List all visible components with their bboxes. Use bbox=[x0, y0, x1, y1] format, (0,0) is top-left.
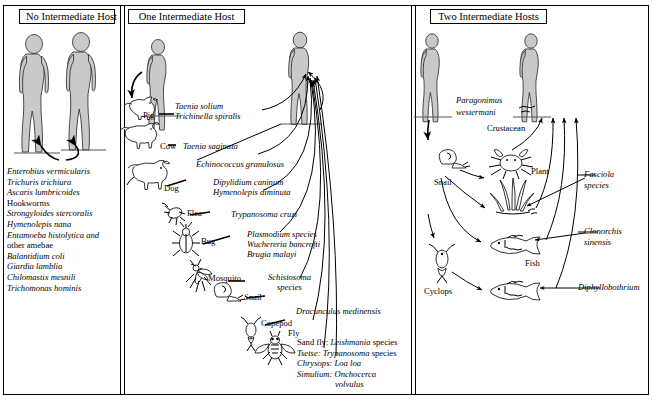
fly-vector-simulium: Simulium: Onchocerca bbox=[297, 369, 398, 380]
parasite-brugia-malayi: Brugia malayi bbox=[247, 249, 296, 260]
parasite-dracunculus-medinensis: Dracunculus medinensis bbox=[296, 306, 381, 317]
panel-title-one-intermediate-host: One Intermediate Host bbox=[128, 9, 245, 24]
host-label-crustacean: Crustacean bbox=[487, 123, 525, 133]
host-label-plant: Plant bbox=[531, 166, 549, 176]
panel-title-two-intermediate-hosts: Two Intermediate Hosts bbox=[430, 9, 547, 24]
species-enterobius: Enterobius vermicularis bbox=[7, 166, 117, 177]
host-label-cow: Cow bbox=[160, 141, 176, 151]
fly-vector-volvulus: volvulus bbox=[297, 379, 398, 390]
host-label-snail: Snail bbox=[244, 292, 262, 302]
panel-divider-left-outer bbox=[120, 5, 121, 395]
parasite-dipylidium-caninum: Dipylidium caninum bbox=[213, 177, 283, 188]
parasite-taenia-saginata: Taenia saginata bbox=[183, 141, 238, 152]
species-strongyloides: Strongyloides stercoralis bbox=[7, 208, 117, 219]
host-label-cyclops: Cyclops bbox=[424, 286, 452, 296]
parasite-plasmodium-species: Plasmodium species bbox=[247, 229, 317, 240]
parasite-trichinella-spiralis: Trichinella spiralis bbox=[175, 111, 241, 122]
panel-divider-left-inner bbox=[124, 5, 125, 395]
parasite-paragonimus-2: westermani bbox=[456, 107, 496, 118]
parasite-schistosoma-species: species bbox=[277, 282, 302, 293]
fly-vector-list: Sand fly: Leishmania species Tsetse: Try… bbox=[297, 337, 398, 390]
species-trichuris: Trichuris trichiura bbox=[7, 177, 117, 188]
species-ascaris: Ascaris lumbricoides bbox=[7, 187, 117, 198]
species-hookworms: Hookworms bbox=[7, 198, 117, 209]
parasite-wuchereria-bancrofti: Wuchereria bancrofti bbox=[247, 239, 320, 250]
host-label-bug: Bug bbox=[201, 236, 215, 246]
panel-divider-right-inner bbox=[415, 5, 416, 395]
parasite-fasciola-1: Fasciola bbox=[584, 169, 614, 180]
host-label-dog: Dog bbox=[164, 183, 179, 193]
parasite-trypanosoma-cruzi: Trypanosoma cruzi bbox=[231, 209, 297, 220]
species-other-amebae: other amebae bbox=[7, 240, 117, 251]
parasite-paragonimus-1: Paragonimus bbox=[456, 95, 502, 106]
host-label-pig: Pig bbox=[143, 110, 154, 120]
panel-title-no-intermediate-host: No Intermediate Host bbox=[19, 9, 115, 24]
species-trichomonas: Trichomonas hominis bbox=[7, 283, 117, 294]
parasite-clonorchis-2: sinensis bbox=[584, 237, 611, 248]
parasite-echinococcus-granulosus: Echinococcus granulosus bbox=[196, 159, 284, 170]
host-label-copepod: Copepod bbox=[261, 318, 292, 328]
species-hymenolepis-nana: Hymenolepis nana bbox=[7, 219, 117, 230]
fly-vector-sandfly: Sand fly: Leishmania species bbox=[297, 337, 398, 348]
parasite-fasciola-2: species bbox=[584, 180, 609, 191]
fly-vector-tsetse: Tsetse: Trypanosoma species bbox=[297, 348, 398, 359]
species-chilomastix: Chilomastix mesnili bbox=[7, 272, 117, 283]
parasite-diphyllobothrium: Diphyllobothrium bbox=[578, 282, 640, 293]
species-balantidium: Balantidium coli bbox=[7, 251, 117, 262]
host-label-fish: Fish bbox=[525, 258, 540, 268]
species-giardia: Giardia lamblia bbox=[7, 261, 117, 272]
species-entamoeba: Entamoeba histolytica and bbox=[7, 230, 117, 241]
host-label-flea: Flea bbox=[187, 208, 202, 218]
parasite-clonorchis-1: Clonorchis bbox=[584, 226, 622, 237]
figure-canvas: No Intermediate Host One Intermediate Ho… bbox=[0, 0, 653, 400]
parasite-hymenolepis-diminuta: Hymenolepis diminuta bbox=[213, 187, 291, 198]
host-label-snail-right: Snail bbox=[434, 177, 452, 187]
panel-divider-right-outer bbox=[411, 5, 412, 395]
host-label-mosquito: Mosquito bbox=[208, 273, 241, 283]
parasite-taenia-solium: Taenia solium bbox=[175, 101, 223, 112]
parasite-schistosoma: Schistosoma bbox=[268, 272, 311, 283]
fly-vector-chrysops: Chrysops: Loa loa bbox=[297, 358, 398, 369]
species-list-no-intermediate-host: Enterobius vermicularis Trichuris trichi… bbox=[7, 166, 117, 293]
